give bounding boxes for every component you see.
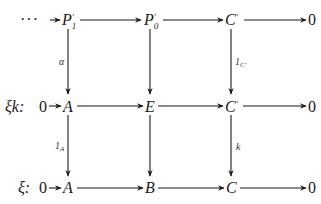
node-subscript: 0 xyxy=(154,21,159,31)
node-B: B xyxy=(145,179,155,196)
node-A-bottom: A xyxy=(62,179,73,196)
svg-text:C′: C′ xyxy=(225,98,239,115)
row2-prefix-zero: 0 xyxy=(39,179,47,196)
svg-text:1C′: 1C′ xyxy=(235,56,247,69)
label-k: k xyxy=(236,141,241,152)
node-E: E xyxy=(144,98,155,115)
svg-text:C′: C′ xyxy=(225,11,239,28)
node-base: P xyxy=(143,11,154,28)
node-P0-prime: P′0 xyxy=(143,11,159,31)
node-prime: ′ xyxy=(236,12,239,22)
node-zero-top: 0 xyxy=(308,11,316,28)
row0-prefix-dots: ··· xyxy=(20,11,39,28)
row-label-xik: ξk: xyxy=(5,98,24,115)
node-C: C xyxy=(226,179,237,196)
commutative-diagram: ξk: ξ: ··· 0 0 P′1 P′0 C′ 0 A E C′ 0 A B… xyxy=(0,0,321,204)
svg-text:P′1: P′1 xyxy=(61,11,76,31)
node-C-prime-top: C′ xyxy=(225,11,239,28)
label-subscript: C′ xyxy=(240,61,247,69)
node-P1-prime: P′1 xyxy=(61,11,76,31)
node-subscript: 1 xyxy=(72,21,77,31)
label-identity-A: 1A xyxy=(55,140,65,153)
label-identity-C-prime: 1C′ xyxy=(235,56,247,69)
row1-prefix-zero: 0 xyxy=(39,98,47,115)
node-C-prime-middle: C′ xyxy=(225,98,239,115)
label-subscript: A xyxy=(59,145,65,153)
node-zero-middle: 0 xyxy=(308,98,316,115)
node-A-middle: A xyxy=(62,98,73,115)
node-base: C xyxy=(225,98,236,115)
node-zero-bottom: 0 xyxy=(308,179,316,196)
row-label-xi: ξ: xyxy=(18,179,30,196)
node-prime: ′ xyxy=(236,99,239,109)
node-base: P xyxy=(61,11,72,28)
svg-text:P′0: P′0 xyxy=(143,11,159,31)
label-alpha: α xyxy=(59,56,65,67)
node-base: C xyxy=(225,11,236,28)
svg-text:1A: 1A xyxy=(55,140,65,153)
